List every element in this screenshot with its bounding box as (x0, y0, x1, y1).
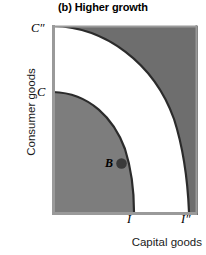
y-axis-title: Consumer goods (25, 32, 37, 192)
y-tick-label-c: C (37, 85, 45, 100)
x-tick-label-i-double-prime: I″ (181, 212, 190, 227)
plot-area (50, 23, 198, 215)
y-tick-label-c-double-prime: C″ (31, 21, 45, 36)
x-axis-title: Capital goods (0, 236, 206, 248)
chart-title: (b) Higher growth (0, 1, 206, 13)
x-tick-label-i: I (127, 212, 131, 227)
point-b-label: B (105, 156, 113, 171)
point-b-marker (116, 158, 127, 169)
ppf-growth-figure: (b) Higher growth Consumer goods Capital… (0, 0, 206, 255)
